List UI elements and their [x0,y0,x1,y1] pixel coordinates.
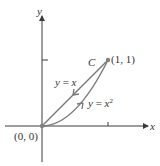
y-axis-label: y [36,5,42,17]
line-y-equals-x [42,60,108,126]
x-axis-label: x [149,120,155,132]
end-point [106,58,110,62]
label-y-equals-x: y = x [54,76,77,88]
origin-label: (0, 0) [14,130,38,143]
label-y-equals-x-squared: y = x2 [87,97,114,109]
closed-curve-diagram: y x C (1, 1) (0, 0) y = x y = x2 [0,0,160,166]
curve-label-c: C [88,56,96,68]
origin-point [40,124,44,128]
end-point-label: (1, 1) [111,53,135,66]
